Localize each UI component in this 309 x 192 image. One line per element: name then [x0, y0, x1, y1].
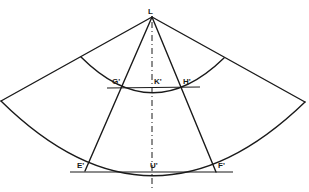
sector-diagram: L G' K' H' E' U' F' [0, 0, 309, 192]
label-e: E' [77, 161, 84, 170]
label-g: G' [112, 77, 120, 86]
line-l-to-e [85, 17, 152, 171]
line-l-to-f [152, 17, 216, 172]
label-h: H' [183, 77, 191, 86]
label-l: L [148, 7, 153, 16]
label-k: K' [154, 77, 162, 86]
label-f: F' [218, 161, 225, 170]
label-u: U' [150, 161, 158, 170]
